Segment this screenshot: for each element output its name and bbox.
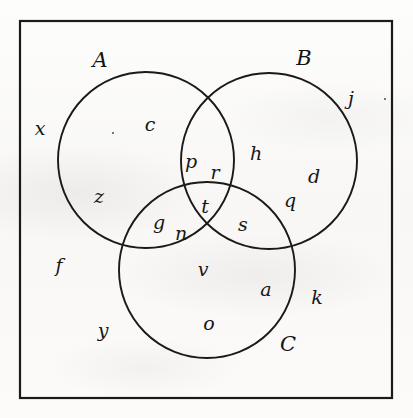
element-r: r [210,163,219,182]
element-g: g [153,213,165,232]
element-q: q [284,191,296,210]
set-label-b: B [296,48,311,69]
element-f: f [55,256,62,275]
stray-mark [112,132,114,134]
element-z: z [94,187,104,206]
element-c: c [145,115,156,134]
element-a: a [260,280,271,299]
element-o: o [203,314,214,333]
element-j: j [348,89,354,108]
stray-mark [384,98,386,100]
element-t: t [201,197,209,216]
element-k: k [311,288,323,307]
element-y: y [98,321,109,340]
set-label-c: C [280,334,296,355]
element-v: v [198,260,209,279]
element-n: n [175,224,187,243]
circle-b [181,73,357,249]
element-h: h [250,144,262,163]
element-x: x [35,119,46,138]
element-d: d [308,167,320,186]
element-p: p [185,152,197,171]
element-s: s [238,215,248,234]
set-label-a: A [92,50,107,71]
venn-diagram-figure: ABC xczfyjhdqkprgntsvao [0,0,413,418]
